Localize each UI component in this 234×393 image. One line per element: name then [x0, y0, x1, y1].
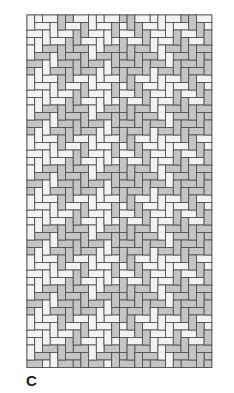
weft-float — [181, 210, 196, 218]
weft-float — [66, 353, 81, 361]
weft-float — [73, 45, 88, 53]
weft-float — [204, 353, 212, 361]
weft-float — [204, 143, 212, 151]
warp-float — [112, 173, 120, 188]
weft-float — [27, 120, 42, 128]
weft-float — [150, 360, 165, 368]
warp-float — [173, 240, 181, 255]
warp-float — [27, 105, 35, 120]
warp-float — [173, 180, 181, 195]
warp-float — [127, 195, 135, 210]
weft-float — [27, 60, 42, 68]
weft-float — [119, 30, 134, 38]
weft-float — [196, 165, 211, 173]
weft-float — [27, 300, 42, 308]
warp-float — [58, 165, 66, 180]
weft-float — [196, 225, 211, 233]
weft-float — [96, 203, 111, 211]
weft-float — [189, 338, 204, 346]
warp-float — [181, 338, 189, 353]
warp-float — [150, 68, 158, 83]
warp-float — [166, 353, 174, 368]
twill-weave-diagram — [0, 0, 234, 393]
weft-float — [181, 330, 196, 338]
weft-float — [204, 173, 212, 181]
warp-float — [96, 128, 104, 143]
warp-float — [158, 105, 166, 120]
warp-float — [196, 263, 204, 278]
weft-float — [135, 345, 150, 353]
warp-float — [112, 233, 120, 248]
weft-float — [27, 98, 35, 106]
warp-float — [58, 45, 66, 60]
weft-float — [42, 135, 57, 143]
warp-float — [89, 195, 97, 210]
warp-float — [158, 255, 166, 270]
warp-float — [35, 158, 43, 173]
weft-float — [96, 113, 111, 121]
weft-float — [89, 240, 104, 248]
weft-float — [89, 330, 104, 338]
warp-float — [173, 210, 181, 225]
warp-float — [66, 38, 74, 53]
weft-float — [196, 45, 211, 53]
weft-float — [135, 75, 150, 83]
warp-float — [104, 360, 112, 368]
weft-float — [119, 270, 134, 278]
weft-float — [104, 105, 119, 113]
weft-float — [58, 330, 73, 338]
warp-float — [135, 23, 143, 38]
warp-float — [35, 278, 43, 293]
weft-float — [119, 330, 134, 338]
warp-float — [73, 30, 81, 45]
warp-float — [66, 218, 74, 233]
weft-float — [89, 60, 104, 68]
warp-float — [42, 210, 50, 225]
weft-float — [66, 263, 81, 271]
warp-float — [89, 285, 97, 300]
warp-float — [50, 323, 58, 338]
weft-float — [27, 180, 42, 188]
warp-float — [127, 15, 135, 30]
weft-float — [73, 315, 88, 323]
weft-float — [143, 173, 158, 181]
warp-float — [66, 308, 74, 323]
warp-float — [150, 338, 158, 353]
weft-float — [35, 203, 50, 211]
warp-float — [104, 180, 112, 195]
warp-float — [127, 165, 135, 180]
warp-float — [166, 263, 174, 278]
weft-float — [27, 210, 42, 218]
weft-float — [27, 218, 35, 226]
warp-float — [189, 45, 197, 60]
weft-float — [204, 83, 212, 91]
weft-float — [35, 143, 50, 151]
weft-float — [81, 248, 96, 256]
weft-float — [27, 338, 35, 346]
weft-float — [66, 23, 81, 31]
warp-float — [173, 150, 181, 165]
weft-float — [181, 300, 196, 308]
warp-float — [173, 330, 181, 345]
warp-float — [35, 68, 43, 83]
weft-float — [73, 255, 88, 263]
weft-float — [166, 45, 181, 53]
warp-float — [143, 300, 151, 315]
warp-float — [181, 15, 189, 23]
weft-float — [143, 323, 158, 331]
weft-float — [104, 255, 119, 263]
warp-float — [143, 270, 151, 285]
weft-float — [196, 75, 211, 83]
weft-float — [204, 263, 212, 271]
warp-float — [189, 225, 197, 240]
weft-float — [66, 143, 81, 151]
weft-float — [119, 53, 127, 61]
warp-float — [96, 338, 104, 353]
weft-float — [127, 38, 142, 46]
warp-float — [196, 53, 204, 68]
weft-float — [112, 128, 120, 136]
warp-float — [104, 30, 112, 45]
weft-float — [96, 23, 111, 31]
weft-float — [27, 270, 42, 278]
weft-float — [143, 23, 158, 31]
